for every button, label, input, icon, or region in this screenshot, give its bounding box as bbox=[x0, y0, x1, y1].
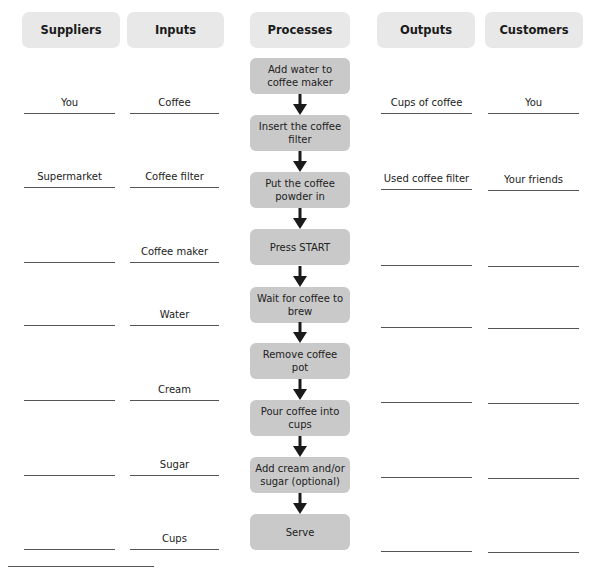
customer-field-3[interactable] bbox=[488, 249, 579, 267]
input-field-1[interactable]: Coffee bbox=[130, 96, 219, 114]
customer-field-2[interactable]: Your friends bbox=[488, 173, 579, 191]
arrow-down-icon bbox=[293, 208, 307, 229]
supplier-field-2[interactable]: Supermarket bbox=[24, 170, 115, 188]
supplier-field-4[interactable] bbox=[24, 308, 115, 326]
arrow-down-icon bbox=[293, 151, 307, 172]
output-field-1[interactable]: Cups of coffee bbox=[381, 96, 472, 114]
supplier-field-5[interactable] bbox=[24, 383, 115, 401]
customer-field-7[interactable] bbox=[488, 535, 579, 553]
header-processes: Processes bbox=[250, 12, 350, 48]
header-inputs: Inputs bbox=[127, 12, 224, 48]
output-field-2[interactable]: Used coffee filter bbox=[381, 172, 472, 190]
supplier-field-1[interactable]: You bbox=[24, 96, 115, 114]
process-step-7: Pour coffee into cups bbox=[250, 400, 350, 436]
arrow-down-icon bbox=[293, 436, 307, 457]
output-field-7[interactable] bbox=[381, 534, 472, 552]
process-step-5: Wait for coffee to brew bbox=[250, 287, 350, 323]
customer-field-1[interactable]: You bbox=[488, 96, 579, 114]
customer-field-4[interactable] bbox=[488, 311, 579, 329]
arrow-down-icon bbox=[293, 322, 307, 343]
output-field-6[interactable] bbox=[381, 460, 472, 478]
process-step-9: Serve bbox=[250, 514, 350, 550]
process-step-1: Add water to coffee maker bbox=[250, 58, 350, 94]
header-customers: Customers bbox=[485, 12, 583, 48]
input-field-6[interactable]: Sugar bbox=[130, 458, 219, 476]
output-field-5[interactable] bbox=[381, 385, 472, 403]
arrow-down-icon bbox=[293, 266, 307, 287]
process-step-6: Remove coffee pot bbox=[250, 343, 350, 379]
process-step-4: Press START bbox=[250, 229, 350, 265]
process-step-8: Add cream and/or sugar (optional) bbox=[250, 457, 350, 493]
input-field-7[interactable]: Cups bbox=[130, 532, 219, 550]
process-step-2: Insert the coffee filter bbox=[250, 115, 350, 151]
customer-field-5[interactable] bbox=[488, 386, 579, 404]
footnote-divider bbox=[8, 566, 154, 567]
supplier-field-7[interactable] bbox=[24, 532, 115, 550]
input-field-5[interactable]: Cream bbox=[130, 383, 219, 401]
output-field-4[interactable] bbox=[381, 310, 472, 328]
supplier-field-6[interactable] bbox=[24, 458, 115, 476]
output-field-3[interactable] bbox=[381, 248, 472, 266]
arrow-down-icon bbox=[293, 94, 307, 115]
arrow-down-icon bbox=[293, 493, 307, 514]
arrow-down-icon bbox=[293, 379, 307, 400]
customer-field-6[interactable] bbox=[488, 461, 579, 479]
input-field-3[interactable]: Coffee maker bbox=[130, 245, 219, 263]
header-outputs: Outputs bbox=[377, 12, 475, 48]
process-step-3: Put the coffee powder in bbox=[250, 172, 350, 208]
input-field-4[interactable]: Water bbox=[130, 308, 219, 326]
supplier-field-3[interactable] bbox=[24, 245, 115, 263]
input-field-2[interactable]: Coffee filter bbox=[130, 170, 219, 188]
header-suppliers: Suppliers bbox=[22, 12, 120, 48]
